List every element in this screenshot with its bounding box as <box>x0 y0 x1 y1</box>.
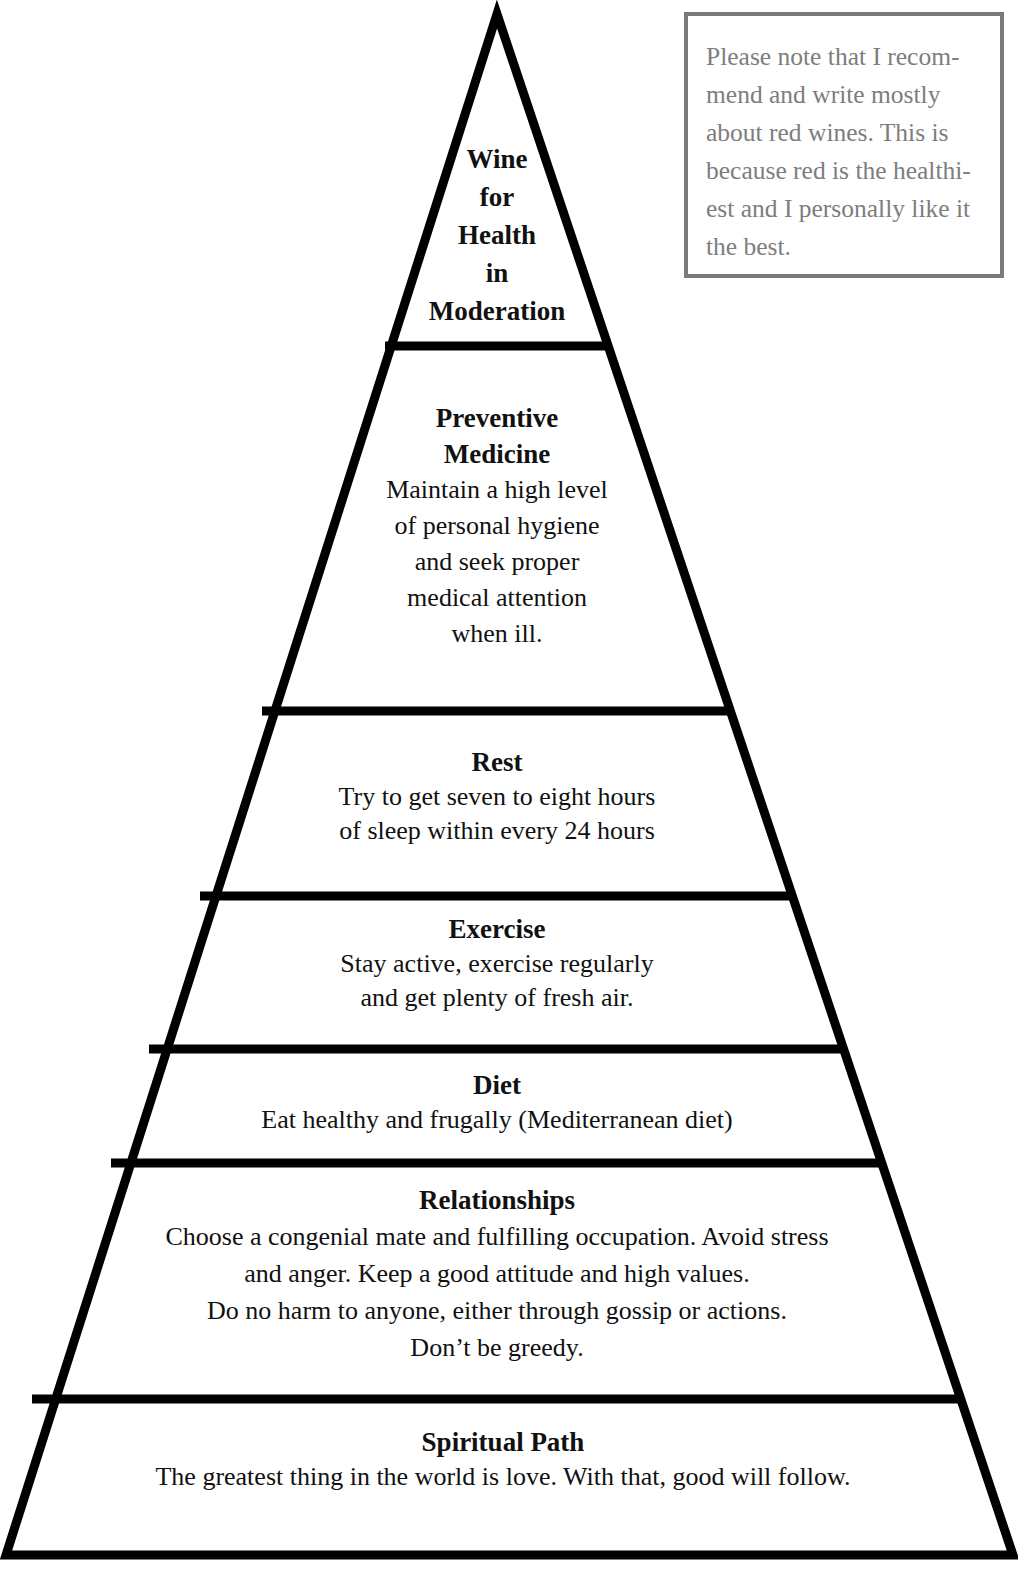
note-line: the best. <box>706 228 986 266</box>
tier-title: Preventive Medicine <box>386 400 608 472</box>
tier-title: Diet <box>261 1067 732 1103</box>
tier-body: Maintain a high level of personal hygien… <box>386 472 608 652</box>
tier-title: Spiritual Path <box>155 1424 850 1460</box>
tier-body: Choose a congenial mate and fulfilling o… <box>165 1218 828 1366</box>
tier-preventive-medicine: Preventive Medicine Maintain a high leve… <box>386 400 608 652</box>
tier-title: Relationships <box>165 1182 828 1218</box>
tier-title: Rest <box>339 744 656 780</box>
tier-body: Stay active, exercise regularly and get … <box>340 947 653 1015</box>
tier-title: Wine for Health in Moderation <box>429 140 565 330</box>
note-line: Please note that I recom- <box>706 38 986 76</box>
tier-relationships: Relationships Choose a congenial mate an… <box>165 1182 828 1366</box>
tier-spiritual-path: Spiritual Path The greatest thing in the… <box>155 1424 850 1494</box>
note-line: about red wines. This is <box>706 114 986 152</box>
tier-rest: Rest Try to get seven to eight hours of … <box>339 744 656 848</box>
note-line: because red is the healthi- <box>706 152 986 190</box>
tier-exercise: Exercise Stay active, exercise regularly… <box>340 911 653 1015</box>
tier-title: Exercise <box>340 911 653 947</box>
tier-wine: Wine for Health in Moderation <box>429 140 565 330</box>
red-wine-note-box: Please note that I recom- mend and write… <box>684 12 1004 278</box>
note-line: mend and write mostly <box>706 76 986 114</box>
tier-body: Eat healthy and frugally (Mediterranean … <box>261 1103 732 1137</box>
tier-body: The greatest thing in the world is love.… <box>155 1460 850 1494</box>
tier-diet: Diet Eat healthy and frugally (Mediterra… <box>261 1067 732 1137</box>
note-line: est and I personally like it <box>706 190 986 228</box>
tier-body: Try to get seven to eight hours of sleep… <box>339 780 656 848</box>
